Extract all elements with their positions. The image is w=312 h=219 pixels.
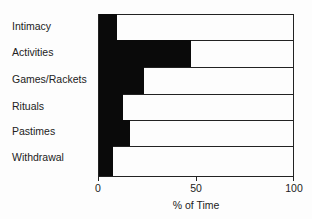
category-label-pastimes: Pastimes	[12, 125, 55, 137]
bar-row-activities	[98, 40, 294, 68]
bar-fill	[99, 14, 117, 41]
bar-fill	[99, 120, 130, 147]
category-label-withdrawal: Withdrawal	[12, 151, 64, 163]
plot-area	[98, 14, 294, 176]
bar-fill	[99, 67, 144, 95]
x-tick-50	[196, 176, 197, 181]
category-label-rituals: Rituals	[12, 100, 44, 112]
x-tick-label-0: 0	[95, 182, 101, 194]
bar-row-rituals	[98, 94, 294, 121]
category-label-games-rackets: Games/Rackets	[12, 73, 87, 85]
bar-row-pastimes	[98, 120, 294, 147]
x-tick-0	[98, 176, 99, 181]
bar-row-games-rackets	[98, 67, 294, 95]
x-tick-label-100: 100	[285, 182, 303, 194]
bar-fill	[99, 40, 191, 68]
category-label-activities: Activities	[12, 46, 53, 58]
bar-row-intimacy	[98, 14, 294, 41]
x-axis-title: % of Time	[173, 199, 220, 211]
category-label-intimacy: Intimacy	[12, 20, 51, 32]
x-tick-100	[293, 176, 294, 181]
x-tick-label-50: 50	[190, 182, 202, 194]
bar-row-withdrawal	[98, 146, 294, 177]
bar-fill	[99, 146, 113, 177]
bar-fill	[99, 94, 123, 121]
